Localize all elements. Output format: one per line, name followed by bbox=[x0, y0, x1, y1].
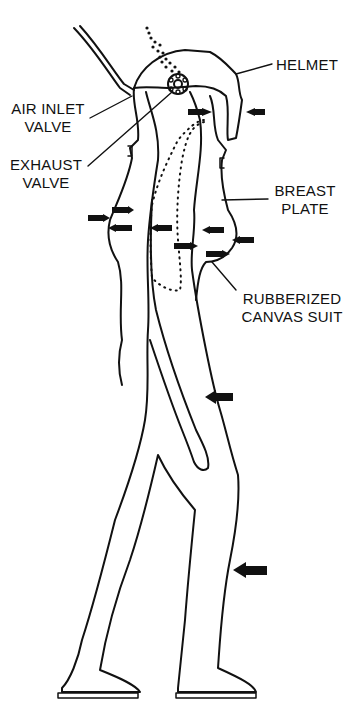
suit-outline bbox=[108, 88, 138, 385]
breast-plate-label-line1: BREAST bbox=[270, 182, 340, 200]
air-inlet-label-line1: AIR INLET bbox=[8, 100, 88, 118]
arrow-icon bbox=[88, 214, 110, 222]
helmet-outline bbox=[134, 50, 242, 140]
boot-soles bbox=[58, 693, 256, 698]
arrow-icon bbox=[246, 108, 265, 116]
suit-label-line1: RUBBERIZED bbox=[232, 290, 352, 308]
label-breast-plate: BREAST PLATE bbox=[270, 182, 340, 218]
arrow-icon bbox=[233, 562, 267, 578]
exhaust-label-line2: VALVE bbox=[6, 174, 86, 192]
arrow-icon bbox=[188, 108, 212, 116]
exhaust-valve bbox=[168, 74, 188, 94]
breast-plate-label-line2: PLATE bbox=[270, 200, 340, 218]
arrow-icon bbox=[174, 242, 198, 250]
air-inlet-label-line2: VALVE bbox=[8, 118, 88, 136]
arrow-icon bbox=[206, 250, 230, 258]
arrow-icon bbox=[205, 390, 233, 404]
exhaust-label-line1: EXHAUST bbox=[6, 156, 86, 174]
label-helmet: HELMET bbox=[276, 56, 338, 74]
label-rubberized-canvas-suit: RUBBERIZED CANVAS SUIT bbox=[232, 290, 352, 326]
air-hose bbox=[74, 26, 134, 95]
arrow-icon bbox=[108, 224, 132, 232]
arrow-icon bbox=[150, 224, 172, 232]
arrow-icon bbox=[112, 206, 134, 214]
helmet-label: HELMET bbox=[276, 56, 338, 74]
breast-plate-outline bbox=[196, 96, 236, 300]
pressure-arrows bbox=[88, 108, 267, 578]
helmet-bolts bbox=[128, 146, 224, 168]
arrow-icon bbox=[202, 226, 224, 234]
suit-label-line2: CANVAS SUIT bbox=[232, 308, 352, 326]
label-air-inlet-valve: AIR INLET VALVE bbox=[8, 100, 88, 136]
label-exhaust-valve: EXHAUST VALVE bbox=[6, 156, 86, 192]
arm-outline bbox=[150, 200, 208, 470]
exhaust-bubbles bbox=[145, 26, 180, 73]
